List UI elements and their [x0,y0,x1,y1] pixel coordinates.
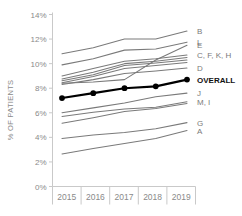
x-axis-tick-label: 2017 [115,192,134,202]
axis-group: 0%2%4%6%8%10%12%14%20152016201720182019 [30,11,195,205]
x-axis-tick-label: 2019 [172,192,191,202]
x-axis-tick-label: 2018 [143,192,162,202]
y-axis-tick-label: 14% [30,11,46,20]
y-axis-tick-label: 8% [35,84,47,93]
y-axis-tick-label: 10% [30,60,46,69]
y-axis-tick-label: 2% [35,158,47,167]
series-label-m-i: M, I [197,98,210,107]
series-marker-overall [184,77,190,83]
series-marker-overall [90,90,96,96]
series-label-overall: OVERALL [197,76,235,85]
x-axis-tick-label: 2015 [57,192,76,202]
y-axis-tick-label: 4% [35,133,47,142]
line-chart-figure: 0%2%4%6%8%10%12%14%20152016201720182019 … [0,0,242,216]
series-line [62,102,187,117]
series-line [62,123,187,139]
series-line [62,131,187,154]
series-label-a: A [197,127,203,136]
series-label-b: B [197,27,202,36]
series-line [62,68,187,85]
series-label-c-f-k-h: C, F, K, H [197,51,231,60]
series-label-d: D [197,64,203,73]
series-marker-overall [59,95,65,101]
series-label-e: E [197,41,202,50]
y-axis-title-group: % OF PATIENTS [6,80,15,141]
x-axis-tick-label: 2016 [86,192,105,202]
y-axis-tick-label: 12% [30,35,46,44]
y-axis-tick-label: 6% [35,109,47,118]
series-marker-overall [153,83,159,89]
y-axis-title: % OF PATIENTS [6,80,15,141]
series-group [59,31,190,154]
series-label-group: BLEC, F, K, HDOVERALLJM, IGA [197,27,235,136]
series-marker-overall [122,85,128,91]
series-line [62,60,187,81]
chart-canvas: 0%2%4%6%8%10%12%14%20152016201720182019 … [0,0,242,216]
y-axis-tick-label: 0% [35,183,47,192]
